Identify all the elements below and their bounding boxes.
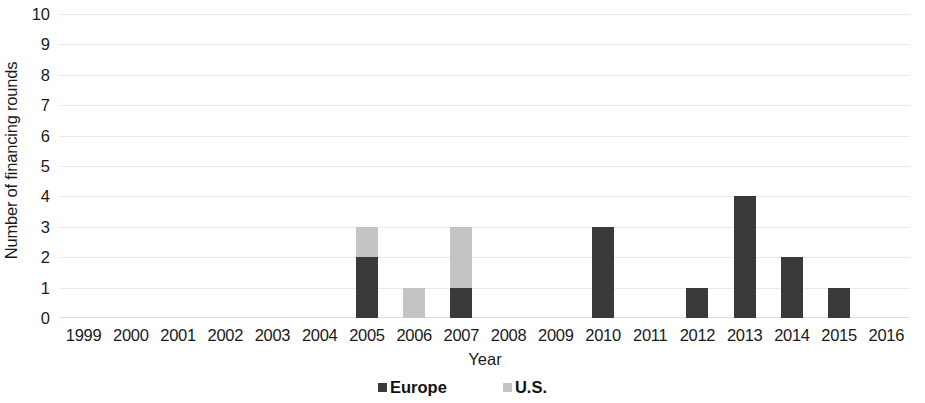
x-axis-tick-1999: 1999 — [60, 323, 107, 347]
bar-group-1999 — [60, 14, 107, 318]
bar-segment-Europe-2013 — [734, 196, 756, 318]
x-axis-tick-2000: 2000 — [107, 323, 154, 347]
x-axis-tick-2001: 2001 — [154, 323, 201, 347]
y-axis-tick-1: 1 — [20, 279, 50, 296]
y-axis-tick-2: 2 — [20, 249, 50, 266]
bar-stack — [734, 196, 756, 318]
bar-group-2005 — [343, 14, 390, 318]
legend-label: Europe — [390, 379, 447, 396]
x-axis-tick-2016: 2016 — [863, 323, 910, 347]
y-axis-tick-4: 4 — [20, 188, 50, 205]
x-axis-tick-2014: 2014 — [768, 323, 815, 347]
x-axis-tick-2003: 2003 — [249, 323, 296, 347]
y-axis-tick-6: 6 — [20, 127, 50, 144]
bar-group-2007 — [438, 14, 485, 318]
bar-group-2009 — [532, 14, 579, 318]
bar-stack — [781, 257, 803, 318]
bar-segment-Europe-2015 — [828, 288, 850, 318]
y-axis-tick-5: 5 — [20, 158, 50, 175]
bar-group-2002 — [202, 14, 249, 318]
legend-swatch-icon — [503, 383, 512, 392]
x-axis-tick-labels: 1999200020012002200320042005200620072008… — [60, 323, 910, 347]
bar-group-2014 — [768, 14, 815, 318]
legend-item-Europe[interactable]: Europe — [378, 379, 447, 396]
bar-group-2010 — [579, 14, 626, 318]
x-axis-tick-2012: 2012 — [674, 323, 721, 347]
y-axis-tick-labels: 109876543210 — [20, 14, 50, 318]
bar-segment-Europe-2012 — [686, 288, 708, 318]
bar-series-group — [60, 14, 910, 318]
bar-stack — [828, 288, 850, 318]
bar-group-2000 — [107, 14, 154, 318]
bar-segment-US-2007 — [450, 227, 472, 288]
bar-segment-Europe-2007 — [450, 288, 472, 318]
bar-segment-US-2005 — [356, 227, 378, 257]
bar-stack — [686, 288, 708, 318]
x-axis-tick-2004: 2004 — [296, 323, 343, 347]
bar-group-2004 — [296, 14, 343, 318]
bar-segment-Europe-2005 — [356, 257, 378, 318]
x-axis-tick-2010: 2010 — [579, 323, 626, 347]
bar-stack — [356, 227, 378, 318]
x-axis-tick-2002: 2002 — [202, 323, 249, 347]
chart-legend: EuropeU.S. — [0, 379, 925, 396]
x-axis-tick-2013: 2013 — [721, 323, 768, 347]
y-axis-title-label: Number of financing rounds — [3, 61, 22, 259]
bar-stack — [592, 227, 614, 318]
bar-stack — [450, 227, 472, 318]
bar-group-2008 — [485, 14, 532, 318]
x-axis-tick-2007: 2007 — [438, 323, 485, 347]
legend-item-US[interactable]: U.S. — [503, 379, 547, 396]
financing-rounds-bar-chart: Number of financing rounds 109876543210 … — [0, 0, 925, 403]
x-axis-tick-2008: 2008 — [485, 323, 532, 347]
bar-group-2012 — [674, 14, 721, 318]
x-axis-tick-2009: 2009 — [532, 323, 579, 347]
bar-group-2016 — [863, 14, 910, 318]
y-axis-tick-0: 0 — [20, 310, 50, 327]
y-axis-tick-8: 8 — [20, 67, 50, 84]
x-axis-tick-2005: 2005 — [343, 323, 390, 347]
y-axis-tick-7: 7 — [20, 97, 50, 114]
bar-group-2011 — [627, 14, 674, 318]
bar-segment-Europe-2014 — [781, 257, 803, 318]
x-axis-tick-2015: 2015 — [816, 323, 863, 347]
x-axis-tick-2011: 2011 — [627, 323, 674, 347]
y-axis-tick-3: 3 — [20, 219, 50, 236]
bar-group-2015 — [816, 14, 863, 318]
bar-segment-US-2006 — [403, 288, 425, 318]
y-axis-tick-10: 10 — [20, 6, 50, 23]
bar-stack — [403, 288, 425, 318]
legend-swatch-icon — [378, 383, 387, 392]
legend-label: U.S. — [515, 379, 547, 396]
bar-group-2003 — [249, 14, 296, 318]
x-axis-title: Year — [60, 350, 910, 369]
bar-segment-Europe-2010 — [592, 227, 614, 318]
bar-group-2013 — [721, 14, 768, 318]
x-axis-title-label: Year — [468, 350, 501, 368]
bar-group-2006 — [391, 14, 438, 318]
bar-group-2001 — [154, 14, 201, 318]
y-axis-tick-9: 9 — [20, 36, 50, 53]
plot-area — [60, 14, 910, 318]
x-axis-tick-2006: 2006 — [391, 323, 438, 347]
